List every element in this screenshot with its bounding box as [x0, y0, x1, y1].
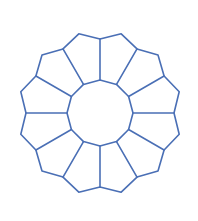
radial-spokes	[26, 39, 174, 187]
spoke-line	[117, 142, 138, 178]
spoke-line	[63, 49, 84, 85]
spoke-line	[63, 142, 84, 178]
spoke-line	[36, 76, 72, 97]
diagram-canvas	[0, 0, 198, 221]
spoke-line	[117, 49, 138, 85]
inner-ring	[67, 80, 133, 146]
spoke-line	[129, 76, 165, 97]
spoke-line	[129, 130, 165, 151]
rosette-diagram	[0, 0, 198, 221]
spoke-line	[36, 130, 72, 151]
inner-dodecagon	[67, 80, 133, 146]
